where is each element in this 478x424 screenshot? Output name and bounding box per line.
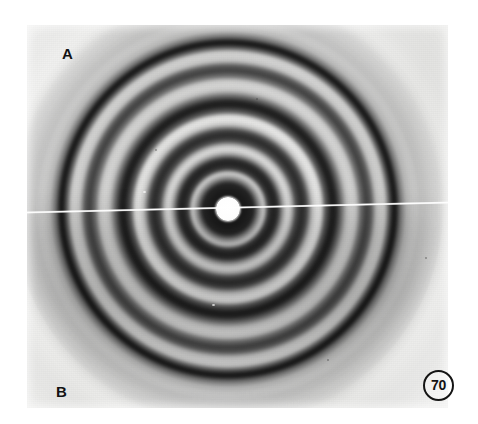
panel-label-a: A [62, 46, 73, 61]
beamstop-shadow-disc [216, 197, 240, 221]
emulsion-speck [143, 191, 146, 193]
page-canvas: A B 70 [0, 0, 478, 424]
emulsion-speck [327, 359, 329, 361]
emulsion-speck [155, 149, 157, 151]
emulsion-speck [425, 257, 427, 259]
figure-number-text: 70 [431, 378, 446, 393]
emulsion-speck [256, 98, 258, 100]
emulsion-speck [212, 304, 215, 306]
panel-label-b: B [56, 384, 67, 399]
diffraction-photograph [27, 25, 448, 408]
figure-number-badge: 70 [423, 370, 454, 401]
